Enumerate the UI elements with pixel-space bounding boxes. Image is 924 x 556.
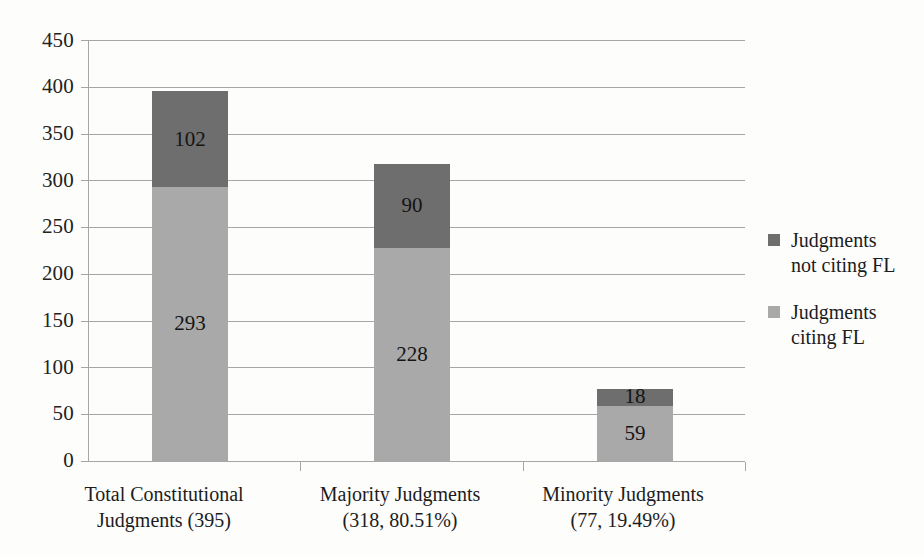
stacked-bar-chart: 450 400 350 300 250 200 150 100 50 0 xyxy=(0,0,924,556)
bar-value-label: 90 xyxy=(402,195,423,216)
bar-segment-not-citing-fl: 18 xyxy=(597,389,673,406)
gridline-450 xyxy=(88,40,745,41)
y-axis-label-400: 400 xyxy=(12,76,74,97)
bar-value-label: 293 xyxy=(174,313,206,334)
legend-label-line-1: Judgments xyxy=(791,229,877,251)
y-axis-label-150: 150 xyxy=(12,310,74,331)
y-axis-label-300: 300 xyxy=(12,170,74,191)
category-label-line-2: (318, 80.51%) xyxy=(288,507,512,533)
category-label-line-1: Total Constitutional xyxy=(52,481,276,507)
legend-swatch-dark-icon xyxy=(768,234,780,246)
gridline-400 xyxy=(88,87,745,88)
category-label-line-1: Majority Judgments xyxy=(288,481,512,507)
category-label-line-2: Judgments (395) xyxy=(52,507,276,533)
legend-label: Judgments not citing FL xyxy=(791,228,895,278)
bar-value-label: 228 xyxy=(396,344,428,365)
y-axis-label-450: 450 xyxy=(12,30,74,51)
legend-label-line-1: Judgments xyxy=(791,301,877,323)
x-axis-category-label-total-constitutional-judgments: Total Constitutional Judgments (395) xyxy=(52,481,276,533)
bar-majority-judgments: 90 228 xyxy=(374,164,450,462)
bar-segment-citing-fl: 228 xyxy=(374,248,450,461)
bar-segment-citing-fl: 59 xyxy=(597,406,673,461)
legend-label: Judgments citing FL xyxy=(791,300,877,350)
bar-value-label: 102 xyxy=(174,129,206,150)
legend-label-line-2: citing FL xyxy=(791,326,865,348)
legend-item-judgments-not-citing-fl: Judgments not citing FL xyxy=(768,228,918,278)
x-axis-category-label-minority-judgments: Minority Judgments (77, 19.49%) xyxy=(514,481,732,533)
page-bottom-edge xyxy=(0,550,924,556)
legend-item-judgments-citing-fl: Judgments citing FL xyxy=(768,300,918,350)
y-axis-label-200: 200 xyxy=(12,263,74,284)
bar-segment-citing-fl: 293 xyxy=(152,187,228,461)
bar-total-constitutional-judgments: 102 293 xyxy=(152,91,228,461)
legend-label-line-2: not citing FL xyxy=(791,254,895,276)
y-axis-label-50: 50 xyxy=(12,403,74,424)
legend-swatch-light-icon xyxy=(768,306,780,318)
bar-segment-not-citing-fl: 90 xyxy=(374,164,450,248)
category-label-line-1: Minority Judgments xyxy=(514,481,732,507)
y-axis-label-100: 100 xyxy=(12,357,74,378)
x-tick-2 xyxy=(523,462,524,471)
x-axis-category-label-majority-judgments: Majority Judgments (318, 80.51%) xyxy=(288,481,512,533)
gridline-0-baseline xyxy=(88,461,745,462)
legend: Judgments not citing FL Judgments citing… xyxy=(768,228,918,372)
y-axis-label-0: 0 xyxy=(12,450,74,471)
bar-segment-not-citing-fl: 102 xyxy=(152,91,228,187)
y-axis-label-350: 350 xyxy=(12,123,74,144)
y-axis-label-250: 250 xyxy=(12,216,74,237)
x-tick-3 xyxy=(745,462,746,471)
plot-area: 102 293 90 228 18 59 xyxy=(88,40,745,461)
x-tick-1 xyxy=(300,462,301,471)
bar-minority-judgments: 18 59 xyxy=(597,389,673,461)
bar-value-label: 59 xyxy=(625,423,646,444)
bar-value-label: 18 xyxy=(625,386,646,407)
category-label-line-2: (77, 19.49%) xyxy=(514,507,732,533)
